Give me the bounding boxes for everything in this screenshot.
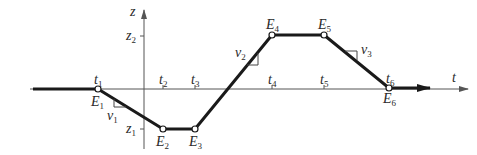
e2-label: E2 [155, 134, 169, 151]
v2-label: v2 [235, 45, 246, 62]
trajectory-path [33, 35, 389, 129]
t-axis-label: t [452, 70, 457, 85]
e3-label: E3 [188, 134, 203, 151]
e1-label: E1 [90, 94, 104, 111]
t4-label: t4 [268, 72, 277, 89]
e5-label: E5 [317, 17, 332, 34]
t1-label: t1 [94, 72, 102, 89]
e4-label: E4 [265, 17, 280, 34]
z-axis-label: z [129, 4, 136, 19]
t5-label: t5 [320, 72, 329, 89]
z2-label: z2 [125, 28, 136, 45]
t3-label: t3 [191, 72, 200, 89]
t2-label: t2 [159, 72, 167, 89]
v3-label: v3 [361, 42, 372, 59]
v1-label: v1 [107, 108, 118, 125]
t6-label: t6 [386, 71, 395, 88]
z1-label: z1 [125, 121, 136, 138]
point-e3 [192, 126, 198, 132]
point-e2 [160, 126, 166, 132]
e6-label: E6 [382, 91, 397, 108]
trajectory-diagram: z t z2 z1 t1 t2 t3 t4 t5 t6 E1 E2 E3 E4 … [0, 0, 477, 155]
